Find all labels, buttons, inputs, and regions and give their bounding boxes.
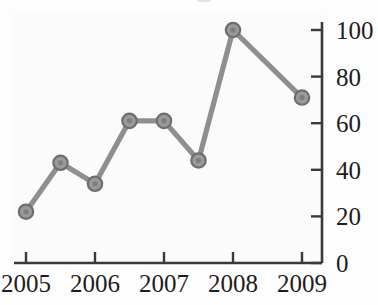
x-axis-tick-label: 2009 [277,271,327,296]
data-point-marker-center [58,160,63,165]
y-axis-tick-label: 80 [336,65,361,90]
data-point-marker-center [196,158,201,163]
data-point-marker-center [161,118,166,123]
y-axis-ticks [311,30,322,263]
data-point-marker-center [230,27,235,32]
data-point-marker-center [92,181,97,186]
y-axis-tick-label: 60 [336,111,361,136]
x-axis-tick-label: 2006 [70,271,120,296]
x-axis-ticks [26,252,302,263]
axis-lines [14,22,322,263]
x-axis-tick-label: 2007 [139,271,189,296]
y-axis-tick-label: 40 [336,158,361,183]
data-point-markers [19,23,309,219]
y-axis-tick-label: 20 [336,204,361,229]
y-axis-tick-label: 0 [336,251,349,276]
line-chart-figure: 020406080100 20052006200720082009 [0,0,378,305]
data-point-marker-center [127,118,132,123]
x-axis-tick-label: 2008 [208,271,258,296]
data-point-marker-center [299,95,304,100]
chart-plot-svg [0,0,378,305]
data-point-marker-center [23,209,28,214]
x-axis-tick-label: 2005 [1,271,51,296]
y-axis-tick-label: 100 [336,18,374,43]
